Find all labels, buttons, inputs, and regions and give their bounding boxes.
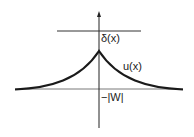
diagram-canvas: [0, 0, 194, 137]
y-axis-arrow-icon: [97, 11, 101, 17]
delta-label: δ(x): [101, 33, 120, 44]
w-label: −|W|: [101, 92, 124, 103]
u-label: u(x): [123, 61, 142, 72]
